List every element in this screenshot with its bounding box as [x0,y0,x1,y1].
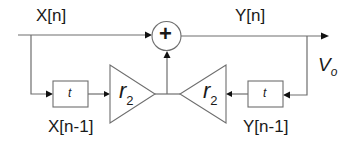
output-voltage-main: V [318,54,331,75]
arrow-into-right-gain [226,91,232,97]
plus-symbol: + [159,21,172,47]
input-branch-wire [31,35,48,94]
right-gain-label: r2 [203,78,218,106]
arrow-into-right-delay [283,92,290,99]
right-delay-label: t [263,86,266,100]
output-branch-wire [288,36,307,95]
input-delayed-label: X[n-1] [48,117,93,137]
output-voltage-label: Vo [318,54,337,79]
left-gain-sub: 2 [126,93,133,108]
arrow-into-sum-left [145,32,152,39]
arrow-into-sum-bottom [164,51,171,58]
arrow-into-left-gain [104,91,110,97]
output-delayed-label: Y[n-1] [243,117,288,137]
input-signal-label: X[n] [36,6,66,26]
output-signal-label: Y[n] [235,6,265,26]
left-gain-label: r2 [119,78,134,106]
arrow-into-left-delay [46,91,53,98]
arrow-output [321,33,329,40]
right-gain-sub: 2 [210,93,217,108]
output-voltage-sub: o [331,65,338,79]
left-delay-label: t [68,86,71,100]
